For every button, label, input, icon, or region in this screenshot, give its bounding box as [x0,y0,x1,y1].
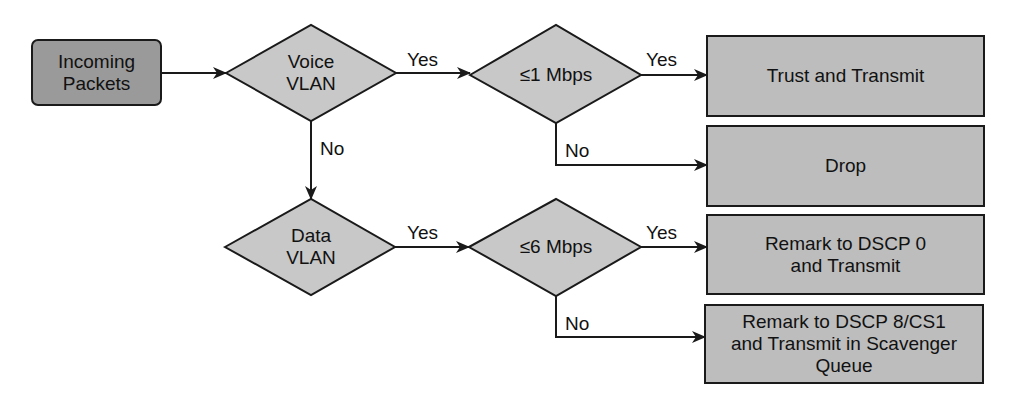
data-line1: Data [291,225,331,247]
incoming-line2: Packets [63,73,131,95]
voice-line1: Voice [288,51,334,73]
edge-label-voice-rate-no: No [565,140,589,162]
trust-label: Trust and Transmit [707,36,984,116]
data-rate-label: ≤6 Mbps [496,235,616,259]
voice-line2: VLAN [286,73,336,95]
remark8-line3: Queue [815,355,872,377]
incoming-packets-label: Incoming Packets [32,40,161,105]
edge-label-data-rate-yes: Yes [646,222,677,244]
edge-label-data-yes: Yes [407,222,438,244]
voice-vlan-label: Voice VLAN [261,50,361,96]
remark8-label: Remark to DSCP 8/CS1 and Transmit in Sca… [705,305,983,383]
edge-label-voice-rate-yes: Yes [646,49,677,71]
remark0-line1: Remark to DSCP 0 [765,233,926,255]
drop-label: Drop [707,126,984,206]
incoming-line1: Incoming [58,51,135,73]
remark8-line1: Remark to DSCP 8/CS1 [742,311,945,333]
data-line2: VLAN [286,247,336,269]
edge-label-data-rate-no: No [565,313,589,335]
data-vlan-label: Data VLAN [261,224,361,270]
connectors [161,73,707,337]
remark8-line2: and Transmit in Scavenger [731,333,957,355]
remark0-label: Remark to DSCP 0 and Transmit [707,215,984,294]
edge-label-voice-yes: Yes [407,49,438,71]
voice-rate-label: ≤1 Mbps [496,63,616,87]
remark0-line2: and Transmit [791,255,901,277]
edge-label-voice-no: No [320,138,344,160]
